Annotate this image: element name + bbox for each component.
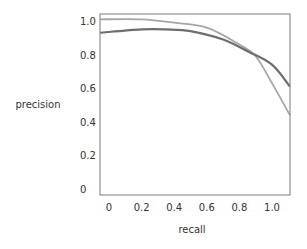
x-tick-label: 0 <box>106 202 112 213</box>
y-tick-label: 0.8 <box>80 50 96 61</box>
y-tick-label: 0.2 <box>80 150 96 161</box>
pr-curve-chart: 00.20.40.60.81.0 00.20.40.60.81.0 precis… <box>0 0 307 249</box>
y-tick-label: 0.4 <box>80 117 96 128</box>
x-tick-label: 0.6 <box>199 202 215 213</box>
y-axis-ticks: 00.20.40.60.81.0 <box>80 16 96 195</box>
x-axis-ticks: 00.20.40.60.81.0 <box>106 202 280 213</box>
y-tick-label: 0.6 <box>80 83 96 94</box>
y-axis-label: precision <box>15 99 60 110</box>
curve-dark-line <box>100 29 290 86</box>
x-tick-label: 0.2 <box>134 202 150 213</box>
curve-light-line <box>100 19 290 115</box>
x-tick-label: 0.8 <box>231 202 247 213</box>
x-tick-label: 1.0 <box>264 202 280 213</box>
plot-series <box>100 19 290 115</box>
plot-frame <box>100 14 290 195</box>
y-tick-label: 0 <box>80 184 86 195</box>
x-tick-label: 0.4 <box>166 202 182 213</box>
y-tick-label: 1.0 <box>80 16 96 27</box>
x-axis-label: recall <box>178 224 205 235</box>
